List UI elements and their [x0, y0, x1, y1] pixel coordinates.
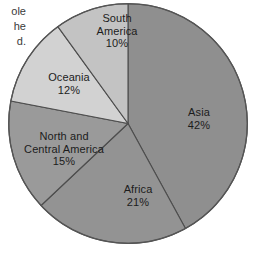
slice-label-asia: Asia 42%	[168, 106, 230, 131]
pie-chart-figure: ole he d. Asia 42% Africa 21% North and …	[0, 0, 257, 253]
slice-label-south-america-name-line1: South	[84, 12, 150, 25]
slice-label-oceania: Oceania 12%	[30, 71, 108, 96]
slice-label-oceania-name: Oceania	[30, 71, 108, 84]
slice-label-north-and-central-america: North and Central America 15%	[14, 130, 114, 168]
slice-label-nca-name-line2: Central America	[14, 143, 114, 156]
slice-label-africa-value: 21%	[104, 196, 172, 209]
slice-label-nca-value: 15%	[14, 155, 114, 168]
pie-chart: Asia 42% Africa 21% North and Central Am…	[8, 3, 248, 244]
slice-label-africa: Africa 21%	[104, 183, 172, 208]
slice-label-asia-name: Asia	[168, 106, 230, 119]
slice-label-south-america: South America 10%	[84, 12, 150, 50]
slice-label-south-america-name-line2: America	[84, 25, 150, 38]
slice-label-africa-name: Africa	[104, 183, 172, 196]
slice-label-south-america-value: 10%	[84, 37, 150, 50]
slice-label-nca-name-line1: North and	[14, 130, 114, 143]
slice-label-asia-value: 42%	[168, 119, 230, 132]
slice-label-oceania-value: 12%	[30, 84, 108, 97]
